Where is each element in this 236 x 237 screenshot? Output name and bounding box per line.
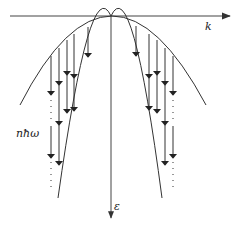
relaxation-arrows-right bbox=[136, 26, 173, 190]
wide-band-curve bbox=[20, 16, 206, 105]
relaxation-arrows-left bbox=[51, 27, 88, 190]
k-axis-label: k bbox=[205, 20, 212, 33]
energy-quantum-label: nħω bbox=[16, 127, 39, 140]
band-diagram: k ε nħω bbox=[0, 0, 236, 237]
energy-axis-label: ε bbox=[114, 200, 120, 213]
